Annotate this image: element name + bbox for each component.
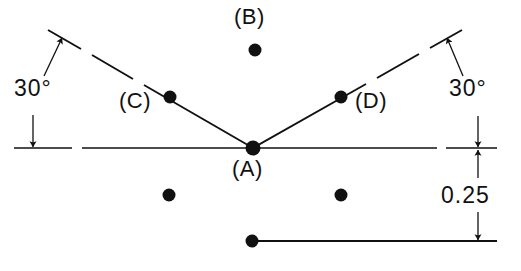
- point-marker-d: [335, 91, 348, 104]
- angle-label-left: 30°: [14, 77, 52, 100]
- point-label-a: (A): [232, 158, 263, 180]
- diagram-canvas: [0, 0, 521, 271]
- technical-diagram: (B) (C) (D) (A) 30° 30° 0.25: [0, 0, 521, 271]
- point-marker-lower-left: [163, 189, 176, 202]
- dimension-arrows: [33, 38, 478, 240]
- point-label-c: (C): [119, 90, 151, 112]
- point-markers: [163, 44, 348, 248]
- point-marker-b: [249, 44, 262, 57]
- point-marker-bottom-line: [246, 235, 259, 248]
- angle-right-arrow: [447, 38, 463, 76]
- point-label-d: (D): [355, 90, 387, 112]
- offset-dimension-label: 0.25: [441, 184, 490, 207]
- left-arm-dash-2: [92, 55, 133, 79]
- right-arm-dash-1: [253, 84, 366, 148]
- right-arm-dash-2: [377, 54, 419, 78]
- point-marker-lower-right: [335, 189, 348, 202]
- angle-label-right: 30°: [449, 77, 487, 100]
- point-label-b: (B): [234, 6, 265, 28]
- point-marker-c: [164, 91, 177, 104]
- angle-left-arrow: [44, 38, 62, 76]
- point-marker-a: [246, 141, 261, 156]
- right-arm-dash-3: [430, 30, 462, 48]
- left-arm-dash-3: [48, 30, 81, 49]
- left-arm-dash-1: [144, 85, 253, 148]
